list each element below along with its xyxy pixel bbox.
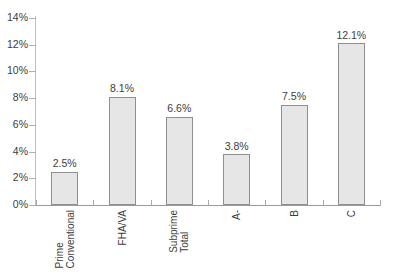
bar[interactable] (338, 43, 365, 205)
y-axis-tick (29, 98, 36, 99)
y-axis-tick (29, 125, 36, 126)
bar[interactable] (109, 97, 136, 205)
y-axis-tick (29, 205, 36, 206)
bar-chart: 0%2%4%6%8%10%12%14% 2.5%8.1%6.6%3.8%7.5%… (0, 0, 397, 278)
bar-column: 2.5% (51, 18, 78, 205)
bar[interactable] (166, 117, 193, 205)
x-axis-category-label: Prime Conventional (54, 210, 76, 268)
bar-value-label: 7.5% (282, 91, 306, 102)
bar-column: 12.1% (338, 18, 365, 205)
bar-value-label: 12.1% (336, 30, 366, 41)
y-axis-tick-label: 14% (0, 12, 28, 23)
bar-value-label: 2.5% (53, 158, 77, 169)
y-axis-tick (29, 71, 36, 72)
x-axis-tick (380, 200, 381, 206)
plot-area: 2.5%8.1%6.6%3.8%7.5%12.1% (36, 18, 380, 205)
x-axis-category-label: FHA/VA (117, 210, 128, 245)
y-axis-tick-label: 2% (0, 172, 28, 183)
x-axis-category-label: Subprime Total (168, 210, 190, 253)
bar[interactable] (281, 105, 308, 205)
x-axis-category-label: C (346, 210, 357, 217)
y-axis-tick-label: 10% (0, 65, 28, 76)
x-axis-category-label: B (289, 210, 300, 217)
y-axis-tick (29, 178, 36, 179)
bar[interactable] (223, 154, 250, 205)
y-axis-tick-label: 4% (0, 146, 28, 157)
bar-value-label: 8.1% (110, 83, 134, 94)
bar-value-label: 3.8% (225, 141, 249, 152)
bar-column: 6.6% (166, 18, 193, 205)
y-axis-tick (29, 18, 36, 19)
chart-title-cropped (96, 0, 296, 3)
bar-column: 3.8% (223, 18, 250, 205)
y-axis-tick-label: 0% (0, 199, 28, 210)
bar-column: 7.5% (281, 18, 308, 205)
y-axis-tick-label: 8% (0, 92, 28, 103)
bar[interactable] (51, 172, 78, 205)
y-axis-tick (29, 45, 36, 46)
bar-column: 8.1% (109, 18, 136, 205)
y-axis-tick-label: 6% (0, 119, 28, 130)
x-axis-category-label: A- (231, 210, 242, 220)
y-axis-tick (29, 152, 36, 153)
bar-value-label: 6.6% (167, 103, 191, 114)
y-axis-tick-label: 12% (0, 39, 28, 50)
